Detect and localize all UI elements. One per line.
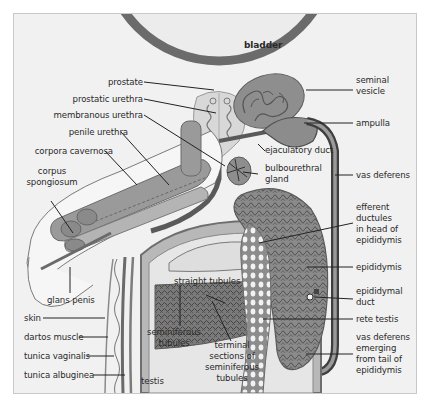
label-tunica-vaginalis: tunica vaginalis	[24, 351, 90, 362]
label-glans-penis: glans penis	[47, 295, 95, 306]
label-straight-tubules: straight tubules	[174, 276, 240, 287]
label-vas-deferens-emerging: vas deferens emerging from tail of epidi…	[356, 332, 410, 376]
label-epididymis: epididymis	[356, 262, 402, 273]
label-bladder: bladder	[244, 40, 282, 51]
label-terminal-sections: terminal sections of seminiferous tubule…	[202, 340, 262, 384]
label-prostate: prostate	[54, 77, 143, 88]
label-bulbourethral-gland: bulbourethral gland	[265, 163, 322, 185]
label-penile-urethra: penile urethra	[24, 127, 128, 138]
label-seminiferous-tubules: seminiferous tubules	[144, 327, 204, 349]
bulbourethral-gland-shape	[227, 157, 251, 185]
label-corpora-cavernosa: corpora cavernosa	[24, 146, 113, 157]
bladder-shape	[104, 14, 334, 61]
label-tunica-albuginea: tunica albuginea	[24, 370, 94, 381]
label-seminal-vesicle: seminal vesicle	[356, 75, 389, 97]
label-ejaculatory-duct: ejaculatory duct	[265, 145, 333, 156]
label-ampulla: ampulla	[356, 118, 390, 129]
label-vas-deferens: vas deferens	[356, 170, 410, 181]
label-rete-testis: rete testis	[356, 314, 398, 325]
diagram-frame: bladder prostate prostatic urethra membr…	[13, 13, 417, 394]
label-prostatic-urethra: prostatic urethra	[34, 94, 143, 105]
label-membranous-urethra: membranous urethra	[24, 110, 143, 121]
label-corpus-spongiosum: corpus spongiosum	[26, 166, 78, 188]
label-testis: testis	[141, 376, 164, 387]
label-dartos-muscle: dartos muscle	[24, 332, 84, 343]
label-epididymal-duct: epididymal duct	[356, 286, 403, 308]
label-efferent-ductules: efferent ductules in head of epididymis	[356, 202, 402, 246]
label-skin: skin	[24, 313, 41, 324]
